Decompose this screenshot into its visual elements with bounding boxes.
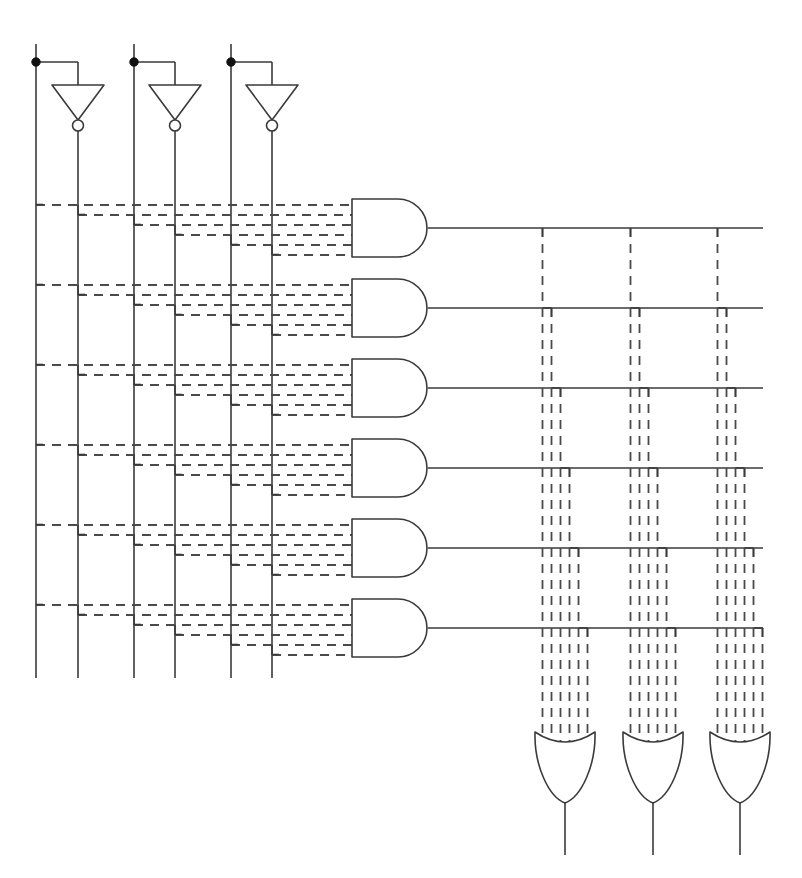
and-gate-6 [352, 599, 427, 657]
and-gate-5 [352, 519, 427, 577]
inverter-3-junction-dot [227, 58, 235, 66]
inverter-1-junction-dot [32, 58, 40, 66]
pla-diagram-canvas [0, 0, 802, 878]
inverter-2-junction-dot [130, 58, 138, 66]
and-gate-group [352, 199, 427, 657]
and-output-line-group [428, 228, 763, 628]
and-gate-4 [352, 439, 427, 497]
and-gate-2 [352, 279, 427, 337]
pla-schematic [0, 0, 802, 878]
inverter-3-triangle [246, 85, 298, 120]
and-gate-3 [352, 359, 427, 417]
or-plane-connection-group [543, 228, 763, 746]
inverter-1-triangle [52, 85, 104, 120]
inverter-group [36, 62, 298, 131]
or-gate-2 [623, 732, 683, 803]
and-plane-connection-group [36, 205, 352, 656]
input-column-group [36, 44, 272, 678]
or-gate-group [535, 732, 770, 855]
inverter-2-triangle [149, 85, 201, 120]
inverter-3-bubble [267, 120, 278, 131]
inverter-1-bubble [73, 120, 84, 131]
inverter-2-bubble [170, 120, 181, 131]
or-gate-1 [535, 732, 595, 803]
and-gate-1 [352, 199, 427, 257]
or-gate-3 [710, 732, 770, 803]
